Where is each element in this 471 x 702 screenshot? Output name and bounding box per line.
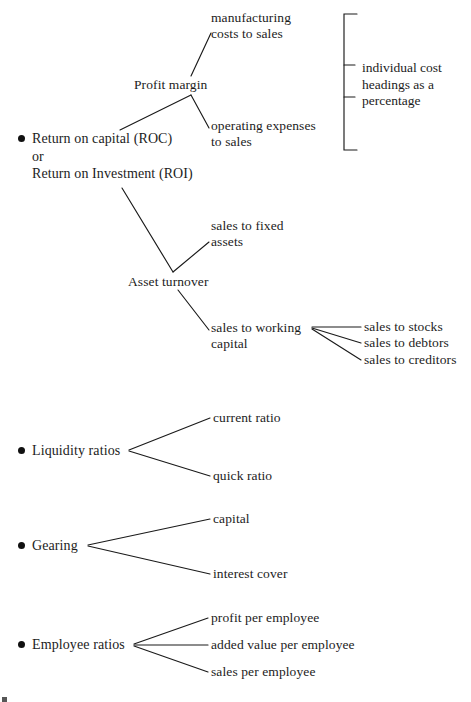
node-asset-turnover-label: Asset turnover	[128, 274, 209, 289]
node-current-ratio-label: current ratio	[213, 410, 281, 425]
node-operating-line1: operating expenses	[211, 118, 316, 133]
node-sales-to-stocks: sales to stocks	[364, 319, 443, 335]
node-quick-ratio: quick ratio	[213, 468, 272, 484]
node-manufacturing-costs-to-sales: manufacturingcosts to sales	[211, 10, 291, 42]
node-asset-turnover: Asset turnover	[128, 274, 209, 290]
edge-liquidity-quickratio	[129, 451, 210, 476]
edge-roi-assetturnover	[122, 188, 173, 272]
node-workingcapital-line1: sales to working	[211, 320, 301, 335]
edge-workingcapital-creditors	[312, 329, 361, 360]
bracket-note-line1: individual cost	[362, 60, 442, 75]
node-sales-to-creditors-label: sales to creditors	[364, 352, 457, 367]
node-capital-label: capital	[213, 511, 250, 526]
node-profit-margin-label: Profit margin	[134, 77, 207, 92]
edge-assetturnover-salesworkingcapital	[178, 290, 209, 330]
node-interest-cover: interest cover	[213, 566, 288, 582]
node-sales-to-fixed-assets: sales to fixedassets	[211, 218, 284, 250]
node-sales-to-stocks-label: sales to stocks	[364, 319, 443, 334]
bracket-note-line2: headings as a	[362, 77, 434, 92]
node-salesfixed-line1: sales to fixed	[211, 218, 284, 233]
grouping-bracket	[344, 14, 357, 150]
node-roc-line1: Return on capital (ROC)	[32, 131, 172, 146]
edge-employee-salesperemployee	[134, 646, 208, 672]
node-profit-margin: Profit margin	[134, 77, 207, 93]
node-gearing-label: Gearing	[32, 538, 78, 553]
edge-liquidity-currentratio	[129, 418, 210, 450]
bracket-note-line3: percentage	[362, 93, 420, 108]
edge-profitmargin-manufacturing	[191, 33, 211, 76]
node-manufacturing-line2: costs to sales	[211, 26, 283, 41]
edge-roc-profitmargin	[120, 95, 191, 130]
node-operating-line2: to sales	[211, 134, 252, 149]
node-bracket-note: individual costheadings as apercentage	[362, 60, 442, 110]
bullet-employee-ratios	[18, 641, 25, 648]
edge-employee-profitperemployee	[134, 618, 208, 644]
node-sales-to-debtors-label: sales to debtors	[364, 335, 449, 350]
bullet-liquidity-ratios	[18, 447, 25, 454]
node-employee-ratios-label: Employee ratios	[32, 637, 125, 652]
node-liquidity-ratios: Liquidity ratios	[32, 442, 120, 460]
node-current-ratio: current ratio	[213, 410, 281, 426]
node-added-value-per-employee-label: added value per employee	[211, 637, 355, 652]
node-salesfixed-line2: assets	[211, 234, 243, 249]
node-manufacturing-line1: manufacturing	[211, 10, 291, 25]
node-quick-ratio-label: quick ratio	[213, 468, 272, 483]
node-roc-line3: Return on Investment (ROI)	[32, 166, 193, 181]
node-workingcapital-line2: capital	[211, 336, 248, 351]
node-operating-expenses-to-sales: operating expensesto sales	[211, 118, 316, 150]
node-return-on-capital: Return on capital (ROC)orReturn on Inves…	[32, 130, 193, 183]
node-added-value-per-employee: added value per employee	[211, 637, 355, 653]
node-profit-per-employee-label: profit per employee	[211, 610, 319, 625]
edge-workingcapital-debtors	[312, 328, 361, 343]
node-liquidity-ratios-label: Liquidity ratios	[32, 443, 120, 458]
edge-gearing-interestcover	[88, 546, 210, 574]
edge-assetturnover-salesfixedassets	[173, 242, 209, 272]
bullet-roc	[18, 135, 25, 142]
bullet-gearing	[18, 542, 25, 549]
node-profit-per-employee: profit per employee	[211, 610, 319, 626]
node-sales-to-creditors: sales to creditors	[364, 352, 457, 368]
node-gearing: Gearing	[32, 537, 78, 555]
node-capital: capital	[213, 511, 250, 527]
node-sales-per-employee: sales per employee	[211, 664, 316, 680]
edge-profitmargin-operatingexpenses	[191, 95, 209, 128]
node-sales-to-debtors: sales to debtors	[364, 335, 449, 351]
node-roc-line2: or	[32, 149, 44, 164]
edge-gearing-capital	[88, 519, 210, 545]
node-sales-per-employee-label: sales per employee	[211, 664, 316, 679]
ratio-tree-diagram: Return on capital (ROC)orReturn on Inves…	[0, 0, 471, 702]
page-corner-artifact	[2, 697, 7, 702]
node-interest-cover-label: interest cover	[213, 566, 288, 581]
node-employee-ratios: Employee ratios	[32, 636, 125, 654]
node-sales-to-working-capital: sales to workingcapital	[211, 320, 301, 352]
